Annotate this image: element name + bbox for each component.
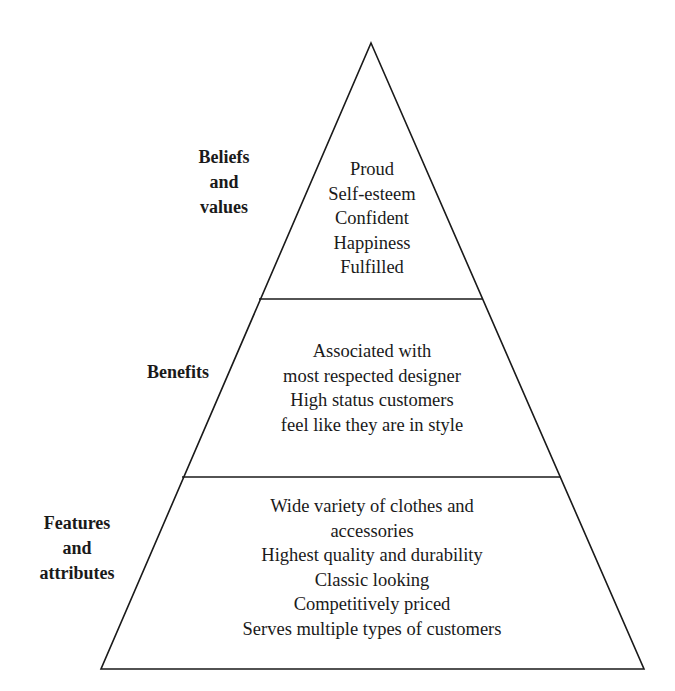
label-line: and [199,170,250,195]
label-line: Beliefs [199,145,250,170]
tier-item: Fulfilled [328,255,415,280]
tier-item: Highest quality and durability [243,543,502,568]
tier-item: Associated with [281,339,463,364]
tier-top-items: Proud Self-esteem Confident Happiness Fu… [328,157,415,280]
label-benefits: Benefits [147,360,209,385]
label-line: Benefits [147,360,209,385]
label-line: Features [40,511,115,536]
tier-middle-items: Associated with most respected designer … [281,339,463,437]
label-line: values [199,195,250,220]
tier-item: Competitively priced [243,592,502,617]
label-line: and [40,536,115,561]
tier-item: Classic looking [243,568,502,593]
tier-item: most respected designer [281,364,463,389]
label-line: attributes [40,561,115,586]
label-features-and-attributes: Features and attributes [40,511,115,586]
tier-item: feel like they are in style [281,413,463,438]
tier-item: Serves multiple types of customers [243,617,502,642]
tier-item: Confident [328,206,415,231]
tier-item: High status customers [281,388,463,413]
tier-item: Wide variety of clothes and [243,494,502,519]
tier-bottom-items: Wide variety of clothes and accessories … [243,494,502,642]
tier-item: Proud [328,157,415,182]
tier-item: accessories [243,519,502,544]
label-beliefs-and-values: Beliefs and values [199,145,250,220]
tier-item: Self-esteem [328,182,415,207]
tier-item: Happiness [328,231,415,256]
